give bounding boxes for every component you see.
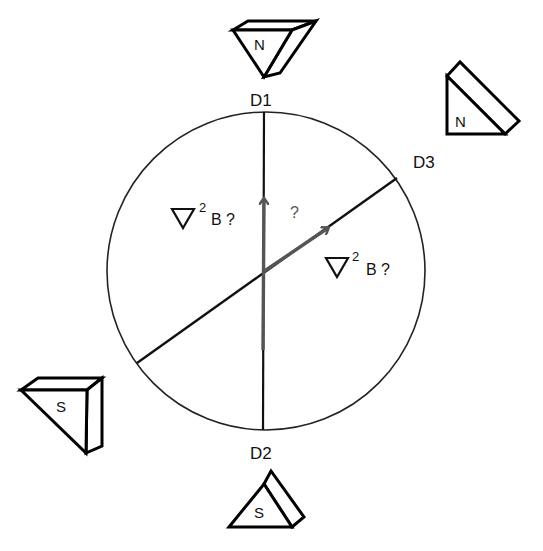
nabla-icon [172, 209, 194, 228]
magnet-right-n-icon: N [447, 62, 519, 134]
right-laplacian-expression: 2 B ? [326, 249, 390, 278]
right-exponent: 2 [352, 249, 359, 264]
label-d1: D1 [250, 91, 272, 110]
magnet-right-pole: N [455, 113, 466, 130]
left-laplacian-expression: 2 B ? [172, 200, 235, 228]
left-exponent: 2 [199, 200, 206, 215]
diagram-canvas: D1 D2 D3 2 B ? ? 2 B ? N N S S [0, 0, 543, 551]
right-expr-rest: B ? [366, 261, 390, 278]
magnet-left-s-icon: S [21, 378, 102, 453]
arrow-vertical [263, 199, 264, 350]
magnet-left-pole: S [56, 398, 66, 415]
label-d3: D3 [413, 153, 435, 172]
magnet-bottom-s-icon: S [229, 471, 304, 527]
magnet-bottom-pole: S [254, 504, 264, 521]
arrow-diagonal [263, 228, 328, 272]
nabla-icon [326, 258, 348, 277]
label-d2: D2 [250, 444, 272, 463]
center-question: ? [290, 204, 299, 221]
magnet-top-pole: N [254, 36, 265, 53]
left-expr-rest: B ? [211, 211, 235, 228]
magnet-top-n-icon: N [233, 21, 316, 77]
